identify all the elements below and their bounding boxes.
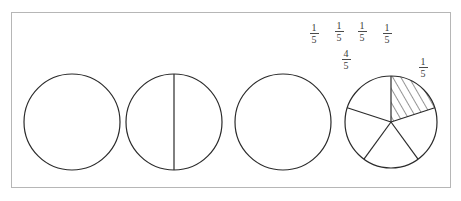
circle-1-undivided [24,74,120,170]
fraction-numerator: 1 [351,21,373,30]
fraction-denominator: 5 [335,61,357,70]
circle-outline [235,74,331,170]
divider-line [391,122,418,159]
divider-line [364,122,391,159]
fraction-label: 15 [412,57,434,78]
circle-2-vertical-diameter [126,74,222,170]
fraction-denominator: 5 [376,35,398,44]
circle-4-fifths-one-shaded [345,76,437,168]
fraction-label: 15 [303,23,325,44]
fraction-denominator: 5 [303,35,325,44]
fraction-label: 15 [351,21,373,42]
fraction-numerator: 1 [412,57,434,66]
fraction-label: 15 [376,23,398,44]
divider-line [347,108,391,122]
fraction-denominator: 5 [328,33,350,42]
fraction-numerator: 1 [328,21,350,30]
fraction-numerator: 1 [303,23,325,32]
fraction-circles-figure: 151515154515 [0,0,461,201]
fraction-label: 15 [328,21,350,42]
fraction-denominator: 5 [412,69,434,78]
circles-group [24,74,437,170]
fraction-label: 45 [335,49,357,70]
fraction-numerator: 1 [376,23,398,32]
circle-3-undivided [235,74,331,170]
fraction-numerator: 4 [335,49,357,58]
fraction-denominator: 5 [351,33,373,42]
circle-outline [24,74,120,170]
